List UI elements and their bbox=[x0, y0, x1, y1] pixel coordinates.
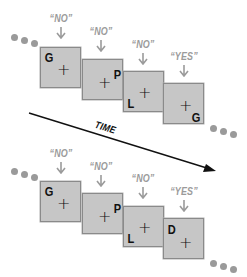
response-label: “NO” bbox=[89, 161, 112, 172]
down-arrow-icon bbox=[56, 162, 66, 174]
response-label: “NO” bbox=[49, 148, 72, 159]
down-arrow-icon bbox=[96, 175, 106, 187]
target-letter: G bbox=[45, 185, 54, 198]
ellipsis-dot bbox=[220, 263, 227, 270]
fixation-cross: + bbox=[138, 220, 151, 236]
target-letter: P bbox=[114, 202, 121, 215]
ellipsis-dot bbox=[11, 168, 18, 175]
fixation-cross: + bbox=[57, 196, 70, 212]
target-letter: L bbox=[128, 232, 135, 245]
target-letter: D bbox=[168, 223, 176, 236]
response-label: “YES” bbox=[170, 186, 198, 197]
stimulus-frame: G + bbox=[40, 181, 81, 222]
ellipsis-dot bbox=[210, 260, 217, 267]
down-arrow-icon bbox=[179, 200, 189, 212]
down-arrow-icon bbox=[138, 187, 148, 199]
ellipsis-dot bbox=[230, 266, 237, 273]
fixation-cross: + bbox=[98, 209, 111, 225]
ellipsis-dot bbox=[21, 171, 28, 178]
response-label: “NO” bbox=[131, 173, 154, 184]
stimulus-frame: D + bbox=[163, 218, 204, 259]
ellipsis-dot bbox=[31, 174, 38, 181]
stimulus-frame: P + bbox=[82, 193, 123, 234]
fixation-cross: + bbox=[179, 235, 192, 251]
stimulus-frame: L + bbox=[123, 206, 164, 247]
